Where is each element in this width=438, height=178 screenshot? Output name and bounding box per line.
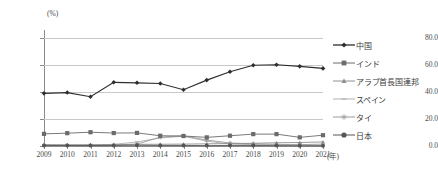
data-point-marker bbox=[275, 144, 279, 148]
data-point-marker bbox=[89, 143, 93, 147]
data-point-marker bbox=[42, 132, 46, 136]
data-point-marker bbox=[205, 144, 209, 148]
data-point-marker bbox=[274, 62, 279, 67]
legend-item[interactable]: タイ bbox=[332, 108, 438, 126]
legend-marker-diamond-icon bbox=[332, 38, 356, 52]
data-point-marker bbox=[228, 69, 233, 74]
data-point-marker bbox=[321, 66, 326, 71]
data-point-marker bbox=[298, 135, 302, 139]
legend-label: スペイン bbox=[356, 94, 386, 105]
legend-label: タイ bbox=[356, 112, 372, 123]
data-point-marker bbox=[205, 135, 209, 139]
data-point-marker bbox=[182, 143, 186, 147]
legend-item[interactable]: スペイン bbox=[332, 90, 438, 108]
legend-item[interactable]: インド bbox=[332, 54, 438, 72]
data-point-marker bbox=[181, 87, 186, 92]
data-point-marker bbox=[88, 130, 92, 134]
legend-marker-triangle-icon bbox=[332, 74, 356, 88]
data-point-marker bbox=[321, 133, 325, 137]
data-point-marker bbox=[298, 144, 302, 148]
data-point-marker bbox=[158, 81, 163, 86]
data-point-marker bbox=[274, 132, 278, 136]
line-chart: (%) 0.020.040.060.080.0 2009201020112012… bbox=[0, 0, 438, 178]
data-point-marker bbox=[251, 143, 255, 147]
data-point-marker bbox=[228, 143, 232, 147]
legend-marker-dash-icon bbox=[332, 92, 356, 106]
legend-item[interactable]: アラブ首長国連邦 bbox=[332, 72, 438, 90]
data-point-marker bbox=[251, 63, 256, 68]
legend-label: インド bbox=[356, 58, 379, 69]
data-point-marker bbox=[112, 143, 116, 147]
legend-label: 中国 bbox=[356, 40, 372, 51]
data-point-marker bbox=[135, 81, 140, 86]
data-point-marker bbox=[65, 90, 70, 95]
legend: 中国インドアラブ首長国連邦スペインタイ日本 bbox=[332, 36, 438, 144]
data-point-marker bbox=[158, 134, 162, 138]
data-point-marker bbox=[112, 131, 116, 135]
data-point-marker bbox=[135, 143, 139, 147]
data-point-marker bbox=[204, 78, 209, 83]
legend-label: 日本 bbox=[356, 130, 372, 141]
data-point-marker bbox=[65, 131, 69, 135]
legend-marker-square-icon bbox=[332, 56, 356, 70]
data-point-marker bbox=[297, 64, 302, 69]
legend-marker-asterisk-icon bbox=[332, 110, 356, 124]
data-point-marker bbox=[228, 134, 232, 138]
legend-label: アラブ首長国連邦 bbox=[356, 76, 418, 87]
data-point-marker bbox=[158, 143, 162, 147]
data-point-marker bbox=[65, 143, 69, 147]
legend-item[interactable]: 中国 bbox=[332, 36, 438, 54]
data-point-marker bbox=[181, 134, 185, 138]
legend-marker-circle-icon bbox=[332, 128, 356, 142]
data-point-marker bbox=[42, 91, 47, 96]
data-point-marker bbox=[42, 143, 46, 147]
legend-item[interactable]: 日本 bbox=[332, 126, 438, 144]
data-point-marker bbox=[251, 132, 255, 136]
data-point-marker bbox=[135, 131, 139, 135]
data-point-marker bbox=[321, 144, 325, 148]
